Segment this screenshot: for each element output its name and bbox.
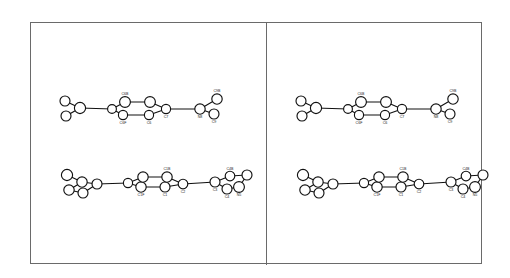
atom	[61, 169, 72, 180]
atom-label-c6f: C6F	[356, 121, 364, 125]
atom	[123, 178, 132, 187]
atom-label-c6: C6	[147, 121, 152, 125]
atom	[310, 102, 321, 113]
atom-label-c7: C7	[164, 115, 169, 119]
atom-label-c7: C7	[400, 115, 405, 119]
atom-c1f	[136, 182, 146, 192]
atom-c1b	[398, 172, 408, 182]
atom-label-c6b: C6B	[358, 92, 366, 96]
atom	[78, 188, 88, 198]
stereo-panel-right: C6FC6BC6C7N8C9C9BC1FC1C1BC2C3C4C4BN5	[267, 23, 502, 265]
atom	[296, 96, 306, 106]
atom-label-c4: C4	[461, 195, 466, 199]
left-upper-bonds	[65, 99, 217, 116]
atom-label-c4b: C4B	[227, 167, 235, 171]
atom-label-c1b: C1B	[164, 167, 172, 171]
left-lower-atoms	[61, 169, 252, 198]
atom	[297, 111, 307, 121]
atom-label-c9: C9	[212, 120, 217, 124]
atom-label-c6b: C6B	[122, 92, 130, 96]
right-lower-labels: C1FC1C1BC2C3C4C4BN5	[374, 167, 478, 199]
atom	[297, 169, 308, 180]
atom-n5	[470, 182, 481, 193]
atom-c6f	[118, 110, 127, 119]
atom	[108, 105, 117, 114]
atom-label-c2: C2	[181, 190, 186, 194]
atom-label-c1: C1	[399, 193, 404, 197]
atom-n8	[195, 104, 205, 114]
molecule-diagram-right: C6FC6BC6C7N8C9C9BC1FC1C1BC2C3C4C4BN5	[267, 23, 502, 265]
atom-label-c9: C9	[448, 120, 453, 124]
figure-canvas: C6FC6BC6C7N8C9C9BC1FC1C1BC2C3C4C4BN5 C6F…	[0, 0, 510, 278]
atom-c3	[210, 177, 220, 187]
atom-label-c9b: C9B	[450, 89, 458, 93]
atom-c6	[380, 110, 389, 119]
atom-c2	[178, 179, 188, 189]
atom	[313, 177, 323, 187]
atom-label-n8: N8	[434, 115, 439, 119]
atom-label-n8: N8	[198, 115, 203, 119]
atom	[145, 97, 156, 108]
atom-label-c3: C3	[213, 188, 218, 192]
atom-label-c1f: C1F	[138, 193, 146, 197]
right-upper-bonds	[301, 99, 453, 116]
atom	[64, 185, 74, 195]
atom-c6b	[120, 97, 131, 108]
atom-label-c6: C6	[383, 121, 388, 125]
atom	[314, 188, 324, 198]
atom-n5	[234, 182, 245, 193]
atom-label-c6f: C6F	[120, 121, 128, 125]
atom-c4	[458, 184, 468, 194]
atom	[61, 111, 71, 121]
stereo-figure-frame: C6FC6BC6C7N8C9C9BC1FC1C1BC2C3C4C4BN5 C6F…	[30, 22, 482, 264]
atom-c2	[414, 179, 424, 189]
atom	[328, 179, 338, 189]
atom-n8	[431, 104, 441, 114]
atom	[242, 170, 252, 180]
atom-c1	[396, 182, 406, 192]
atom-c1f	[372, 182, 382, 192]
atom-c1b	[162, 172, 172, 182]
atom-c1	[160, 182, 170, 192]
atom-c3	[446, 177, 456, 187]
atom-c4b	[225, 171, 235, 181]
atom-c6	[144, 110, 153, 119]
atom-c7	[397, 104, 406, 113]
atom	[381, 97, 392, 108]
atom-c9	[445, 109, 455, 119]
atom	[92, 179, 102, 189]
atom-label-c2: C2	[417, 190, 422, 194]
molecule-diagram-left: C6FC6BC6C7N8C9C9BC1FC1C1BC2C3C4C4BN5	[31, 23, 266, 265]
atom	[60, 96, 70, 106]
atom-label-n5: N5	[237, 193, 242, 197]
atom	[77, 177, 87, 187]
atom	[359, 178, 368, 187]
atom-c6f	[354, 110, 363, 119]
atom-c4	[222, 184, 232, 194]
atom-c9	[209, 109, 219, 119]
atom-c9b	[212, 94, 222, 104]
atom-label-c4: C4	[225, 195, 230, 199]
atom	[374, 172, 384, 182]
atom-label-n5: N5	[473, 193, 478, 197]
atom-c4b	[461, 171, 471, 181]
atom-label-c3: C3	[449, 188, 454, 192]
atom-label-c1b: C1B	[400, 167, 408, 171]
left-lower-labels: C1FC1C1BC2C3C4C4BN5	[138, 167, 242, 199]
right-lower-atoms	[297, 169, 488, 198]
atom-label-c1: C1	[163, 193, 168, 197]
atom	[344, 105, 353, 114]
atom-c6b	[356, 97, 367, 108]
atom	[138, 172, 148, 182]
atom	[300, 185, 310, 195]
atom-label-c9b: C9B	[214, 89, 222, 93]
atom-label-c1f: C1F	[374, 193, 382, 197]
atom-label-c4b: C4B	[463, 167, 471, 171]
atom-c9b	[448, 94, 458, 104]
atom	[74, 102, 85, 113]
stereo-panel-left: C6FC6BC6C7N8C9C9BC1FC1C1BC2C3C4C4BN5	[31, 23, 266, 265]
atom	[478, 170, 488, 180]
atom-c7	[161, 104, 170, 113]
